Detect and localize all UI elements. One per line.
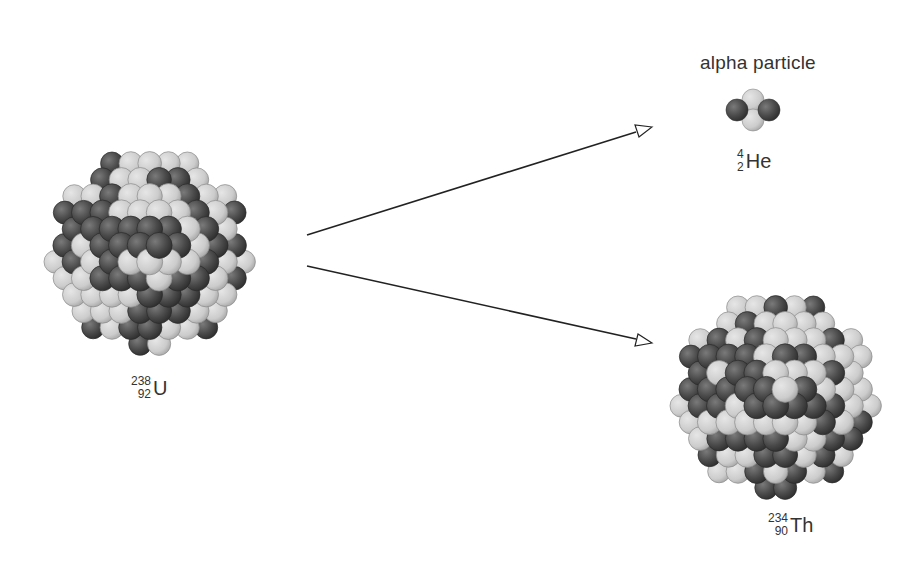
helium-atomic-number: 2 [737,161,744,174]
uranium-nucleus [44,152,255,356]
uranium-atomic-number: 92 [138,388,151,401]
arrow-to-thorium [307,266,652,346]
helium-symbol: He [746,150,772,173]
uranium-symbol: U [153,377,167,400]
uranium-notation: 238 92 U [131,375,167,401]
thorium-atomic-number: 90 [775,525,788,538]
thorium-symbol: Th [790,514,813,537]
arrow-to-alpha [307,125,652,235]
thorium-nucleus [670,296,881,500]
helium-notation: 4 2 He [737,148,771,174]
decay-diagram [0,0,914,568]
alpha-particle [726,89,780,131]
thorium-notation: 234 90 Th [768,512,813,538]
alpha-particle-title: alpha particle [700,52,816,74]
